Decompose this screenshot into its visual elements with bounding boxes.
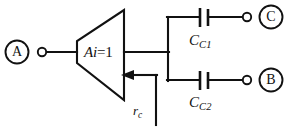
cap-cc2-subscript: C2 (199, 101, 212, 112)
rc-subscript: c (138, 110, 142, 120)
terminal-b-letter: B (264, 73, 278, 87)
rc-label: rc (133, 104, 142, 121)
amplifier-gain-symbol: Ai (84, 44, 97, 60)
terminal-c-letter: C (264, 10, 278, 24)
amplifier-gain-value: =1 (97, 44, 113, 60)
cap-cc1-symbol: C (189, 32, 199, 48)
terminal-node-c (243, 13, 251, 21)
cap-cc2-label: CC2 (189, 95, 212, 113)
terminal-node-a (38, 48, 46, 56)
circuit-diagram: Ai=1 CC1 CC2 rc A C B (0, 0, 289, 131)
amplifier-label: Ai=1 (84, 45, 113, 60)
circuit-schematic-canvas (0, 0, 289, 131)
terminal-node-b (243, 76, 251, 84)
terminal-a-letter: A (10, 45, 24, 59)
cap-cc1-label: CC1 (189, 33, 212, 51)
cap-cc2-symbol: C (189, 94, 199, 110)
cap-cc1-subscript: C1 (199, 39, 212, 50)
